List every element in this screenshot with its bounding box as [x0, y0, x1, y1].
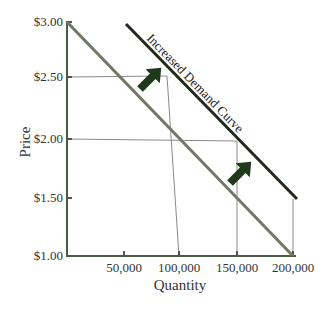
- guide-lines: [67, 76, 293, 256]
- x-axis-title: Quantity: [154, 277, 207, 293]
- x-tick-label: 200,000: [272, 260, 314, 275]
- y-axis-title: Price: [17, 126, 33, 157]
- x-tick-label: 50,000: [106, 260, 142, 275]
- y-tick-label: $2.00: [34, 131, 63, 146]
- y-tick-label: $1.50: [34, 190, 63, 205]
- x-tick-label: 150,000: [216, 260, 258, 275]
- y-tick-label: $3.00: [34, 14, 63, 29]
- shift-arrow-icon: [133, 61, 168, 96]
- shift-arrow-icon: [223, 155, 258, 190]
- y-tick-label: $1.00: [34, 248, 63, 263]
- x-tick-label: 100,000: [158, 260, 200, 275]
- increased-demand-label: Increased Demand Curve: [144, 31, 247, 136]
- demand-chart: Increased Demand Curve $3.00 $2.50 $2.00…: [0, 0, 330, 309]
- y-tick-label: $2.50: [34, 69, 63, 84]
